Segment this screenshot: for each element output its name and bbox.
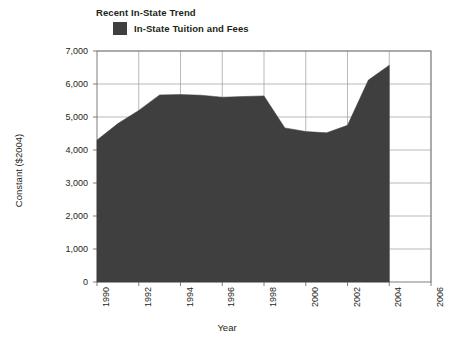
plot-svg xyxy=(0,0,454,343)
area-series-in-state-tuition-and-fees xyxy=(97,65,389,282)
chart-container: Recent In-State Trend In-State Tuition a… xyxy=(0,0,454,343)
